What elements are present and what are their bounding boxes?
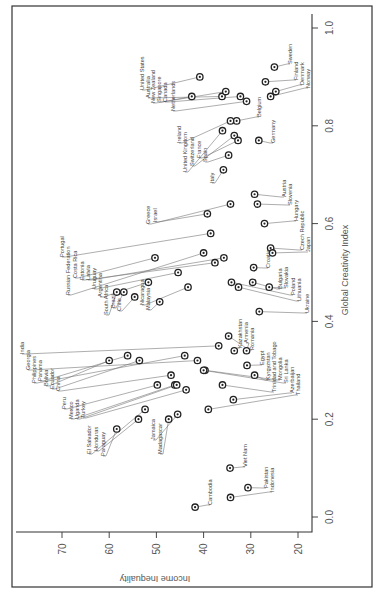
data-point-dot [184, 355, 186, 357]
country-label: Belgium [256, 96, 262, 117]
country-label: United Kingdom [182, 132, 188, 172]
data-point-dot [221, 95, 223, 97]
data-point-dot [245, 100, 247, 102]
leader-line [77, 385, 177, 419]
gci-tick-label: 0.8 [324, 118, 335, 132]
leader-line [148, 204, 231, 224]
country-label: Germany [270, 120, 276, 143]
data-point-dot [232, 399, 234, 401]
data-point-dot [263, 223, 265, 225]
country-label: South Africa [103, 284, 109, 315]
country-label: Japan [305, 237, 311, 252]
data-point-dot [229, 120, 231, 122]
leader-line [233, 393, 292, 400]
data-point-dot [275, 90, 277, 92]
data-point-dot [108, 359, 110, 361]
data-point-dot [116, 291, 118, 293]
data-point-dot [253, 267, 255, 269]
data-point-dot [214, 262, 216, 264]
data-point-dot [252, 281, 254, 283]
data-point-dot [199, 76, 201, 78]
leader-line [62, 233, 211, 257]
data-point-dot [237, 139, 239, 141]
leader-line [222, 385, 274, 392]
country-label: Canada [162, 82, 168, 102]
data-point-dot [123, 291, 125, 293]
country-label: Indonesia [269, 467, 275, 492]
data-point-dot [237, 286, 239, 288]
data-point-dot [270, 247, 272, 249]
leader-line [273, 252, 308, 253]
data-point-dot [187, 286, 189, 288]
data-point-dot [236, 120, 238, 122]
data-point-dot [196, 359, 198, 361]
data-point-dot [228, 154, 230, 156]
gci-tick-label: 0.6 [324, 216, 335, 230]
gci-tick-label: 0.0 [324, 510, 335, 524]
ineq-tick-label: 60 [104, 543, 115, 555]
leader-line [231, 492, 272, 497]
leader-line [276, 85, 302, 92]
data-point-dot [177, 271, 179, 273]
ineq-tick-label: 40 [198, 543, 209, 555]
country-labels: United StatesAustraliaNew ZealandSingapo… [19, 44, 311, 505]
data-point-dot [185, 389, 187, 391]
data-point-dot [245, 350, 247, 352]
leader-line [71, 385, 175, 419]
data-point-dot [223, 257, 225, 259]
data-point-dot [233, 134, 235, 136]
ineq-tick-label: 30 [245, 543, 256, 555]
country-label: Honduras [93, 427, 99, 451]
data-point-dot [144, 408, 146, 410]
plot-area: 0.00.20.40.60.81.0 706050403020 United S… [16, 14, 335, 555]
data-point-dot [207, 408, 209, 410]
data-point-dot [246, 364, 248, 366]
gci-axis: 0.00.20.40.60.81.0 [312, 21, 335, 524]
data-point-dot [194, 506, 196, 508]
data-point-dot [264, 81, 266, 83]
leader-line [264, 221, 296, 224]
leader-line [265, 80, 296, 82]
data-point-dot [221, 130, 223, 132]
income-inequality-axis: 706050403020 [57, 532, 304, 555]
leader-line [52, 361, 139, 389]
leader-line [257, 204, 290, 205]
country-label: Cambodia [207, 479, 213, 505]
country-label: Viet Nam [242, 444, 248, 467]
country-label: Italy [209, 173, 215, 183]
data-point-dot [134, 296, 136, 298]
country-label: Russian Federation [65, 246, 71, 295]
data-point-dot [170, 374, 172, 376]
country-label: Paraguay [100, 432, 106, 456]
data-point-dot [203, 252, 205, 254]
data-point-dot [258, 311, 260, 313]
data-point-dot [137, 418, 139, 420]
country-label: Croatia [265, 249, 271, 268]
country-label: Costa Rica [72, 250, 78, 278]
data-point-dot [147, 281, 149, 283]
leader-line [22, 346, 219, 354]
gci-axis-title: Global Creativity Index [340, 224, 350, 315]
gci-tick-label: 0.2 [324, 412, 335, 426]
data-point-dot [253, 193, 255, 195]
ineq-tick-label: 70 [57, 543, 68, 555]
data-point-dot [154, 257, 156, 259]
leader-line [83, 390, 186, 418]
leader-line [271, 248, 302, 250]
data-point-dot [168, 418, 170, 420]
country-label: Lithuania [296, 277, 302, 301]
data-point-dot [177, 413, 179, 415]
data-point-dot [256, 203, 258, 205]
country-label: Madagascar [157, 423, 163, 454]
country-label: Romania [249, 327, 255, 350]
data-point-dot [210, 232, 212, 234]
data-point-dot [228, 335, 230, 337]
gci-tick-label: 0.4 [324, 314, 335, 328]
data-point-dot [138, 359, 140, 361]
data-point-dot [156, 384, 158, 386]
country-label: Thailand [295, 374, 301, 395]
data-point-dot [229, 203, 231, 205]
leader-line [173, 101, 247, 111]
leader-line [255, 194, 284, 197]
ineq-tick-label: 50 [151, 543, 162, 555]
